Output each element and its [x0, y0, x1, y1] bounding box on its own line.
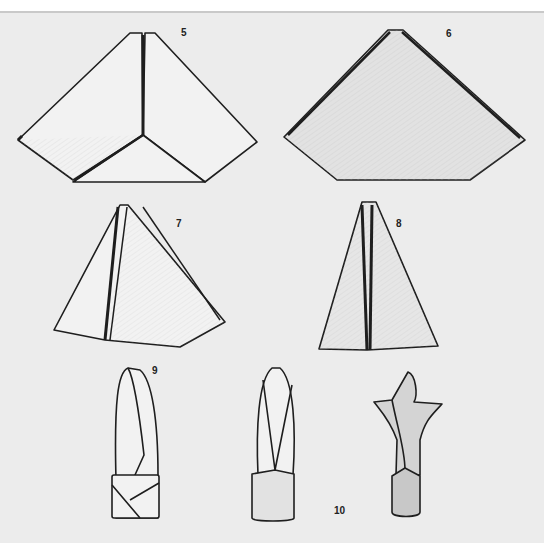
step-number-7: 7 [176, 218, 182, 229]
napkin-folding-illustration [0, 0, 544, 543]
step-8-drawing [319, 202, 438, 350]
step-10b-drawing [374, 372, 442, 517]
step-9-drawing [112, 368, 159, 518]
step-number-5: 5 [181, 27, 187, 38]
step-5-drawing [18, 33, 257, 182]
step-number-8: 8 [396, 218, 402, 229]
step-number-9: 9 [152, 365, 158, 376]
step-6-drawing [284, 30, 525, 180]
step-number-10: 10 [334, 505, 345, 516]
step-10a-drawing [252, 368, 294, 521]
step-7-drawing [54, 205, 225, 347]
step-number-6: 6 [446, 28, 452, 39]
